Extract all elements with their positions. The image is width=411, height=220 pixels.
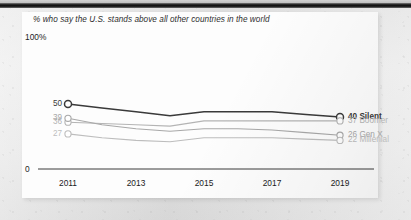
x-tick-2013: 2013 (127, 178, 146, 188)
x-tick-2017: 2017 (263, 178, 282, 188)
plot-area: 5040 Silent3637 Boomer3926 Gen X2722 Mil… (22, 12, 378, 198)
data-point-gen-x-start[interactable] (65, 115, 71, 121)
end-label-millenial: 22 Millenial (348, 135, 389, 144)
start-label-silent: 50 (40, 99, 62, 108)
x-tick-2015: 2015 (195, 178, 214, 188)
data-point-boomer-end[interactable] (337, 118, 343, 124)
data-point-millenial-start[interactable] (65, 131, 71, 137)
line-chart-svg (22, 12, 378, 198)
end-label-boomer: 37 Boomer (348, 116, 388, 125)
x-tick-2011: 2011 (59, 178, 77, 188)
data-point-silent-start[interactable] (65, 101, 72, 108)
series-line-silent (68, 104, 340, 117)
series-line-millenial (68, 134, 340, 142)
x-tick-2019: 2019 (331, 178, 350, 188)
data-point-millenial-end[interactable] (337, 137, 343, 143)
scan-top-dark-bar (0, 3, 411, 8)
start-label-millenial: 27 (40, 129, 62, 138)
start-label-gen-x: 39 (40, 113, 62, 122)
chart-card: % who say the U.S. stands above all othe… (22, 12, 378, 198)
